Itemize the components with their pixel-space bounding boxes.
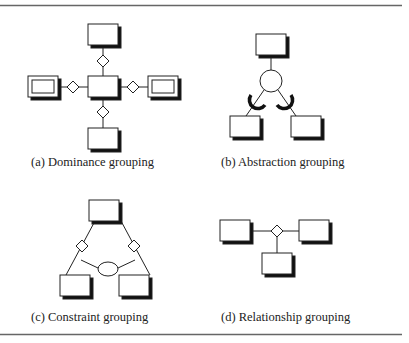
constraint-ellipse bbox=[98, 262, 118, 276]
diagram-canvas bbox=[0, 0, 409, 343]
relationship-diamond-right bbox=[127, 81, 139, 93]
caption-c: (c) Constraint grouping bbox=[31, 310, 148, 325]
subset-hook-right bbox=[277, 95, 293, 109]
relationship-diamond-right bbox=[128, 240, 140, 252]
supertype-box bbox=[256, 34, 289, 58]
abstraction-circle bbox=[260, 70, 282, 92]
relationship-diamond-top bbox=[97, 55, 109, 67]
subtype-box-right bbox=[291, 116, 324, 140]
entity-box-top bbox=[88, 24, 121, 48]
subset-hook-left bbox=[249, 95, 265, 109]
entity-box-left bbox=[220, 220, 253, 244]
entity-box-bottom bbox=[262, 253, 295, 277]
entity-box-right bbox=[119, 275, 152, 299]
entity-box-right bbox=[299, 220, 332, 244]
panel-b-abstraction bbox=[230, 34, 324, 140]
panel-d-relationship bbox=[220, 220, 332, 277]
weak-entity-box-right bbox=[148, 76, 181, 100]
caption-d: (d) Relationship grouping bbox=[221, 310, 350, 325]
relationship-diamond-bottom bbox=[97, 106, 109, 118]
relationship-diamond bbox=[271, 225, 283, 237]
weak-entity-box-left bbox=[28, 76, 61, 100]
entity-box-center bbox=[88, 76, 121, 100]
relationship-diamond-left bbox=[76, 240, 88, 252]
subtype-box-left bbox=[230, 116, 263, 140]
relationship-diamond-left bbox=[67, 81, 79, 93]
panel-c-constraint bbox=[60, 200, 152, 299]
entity-box-top bbox=[89, 200, 122, 224]
panel-a-dominance bbox=[28, 24, 181, 152]
entity-box-left bbox=[60, 275, 93, 299]
entity-box-bottom bbox=[88, 128, 121, 152]
caption-b: (b) Abstraction grouping bbox=[221, 155, 345, 170]
caption-a: (a) Dominance grouping bbox=[31, 155, 154, 170]
